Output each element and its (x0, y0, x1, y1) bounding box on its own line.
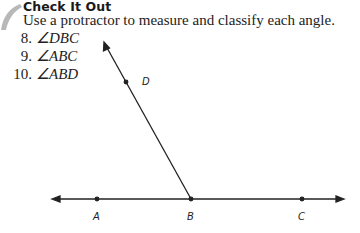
label-d: D (142, 76, 150, 87)
point-b (189, 197, 193, 201)
arrow-right-icon (336, 196, 344, 202)
point-a (95, 197, 99, 201)
label-c: C (298, 211, 305, 222)
point-c (300, 197, 304, 201)
label-b: B (187, 211, 194, 222)
angle-diagram: A B C D (0, 0, 360, 233)
arrow-left-icon (52, 196, 60, 202)
ray-bd (106, 46, 191, 199)
point-d (124, 80, 128, 84)
label-a: A (92, 211, 100, 222)
